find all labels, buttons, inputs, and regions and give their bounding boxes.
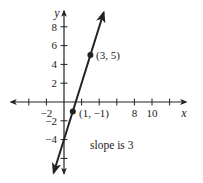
- point-3-5: [87, 52, 93, 58]
- line-graph: −2 8 10 x 8 6 4 2 −2 −4 y (3, 5) (1, −1)…: [0, 0, 203, 183]
- y-axis: 8 6 4 2 −2 −4 y: [45, 6, 67, 174]
- y-tick-label-2: 2: [52, 77, 58, 89]
- x-tick-label-8: 8: [132, 107, 138, 119]
- y-tick-label-neg4: −4: [45, 133, 57, 145]
- point-1-neg1: [70, 108, 76, 114]
- y-tick-label-neg2: −2: [45, 115, 57, 127]
- y-tick-label-6: 6: [52, 39, 58, 51]
- x-axis-label: x: [180, 106, 187, 120]
- y-axis-label: y: [53, 6, 60, 20]
- x-tick-label-10: 10: [147, 107, 159, 119]
- y-tick-label-4: 4: [52, 58, 58, 70]
- point-1-neg1-label: (1, −1): [79, 107, 109, 120]
- slope-annotation: slope is 3: [90, 139, 134, 152]
- y-tick-label-8: 8: [52, 21, 58, 33]
- point-3-5-label: (3, 5): [96, 49, 120, 62]
